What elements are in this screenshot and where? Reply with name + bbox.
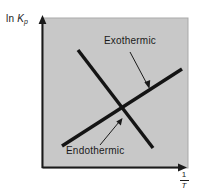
y-axis-label-prefix: ln [6, 13, 17, 24]
x-axis-label-numerator: 1 [176, 170, 192, 179]
thermodynamics-plot-figure: ln Kp 1 T Exothermic Endothermic [0, 0, 208, 194]
y-axis-label: ln Kp [6, 14, 28, 25]
x-axis-label-denominator: T [176, 181, 192, 190]
plot-canvas [0, 0, 208, 194]
endothermic-label: Endothermic [66, 146, 124, 156]
exothermic-label: Exothermic [104, 36, 156, 46]
y-axis-label-subscript: p [24, 18, 28, 25]
x-axis-label: 1 T [176, 170, 192, 190]
